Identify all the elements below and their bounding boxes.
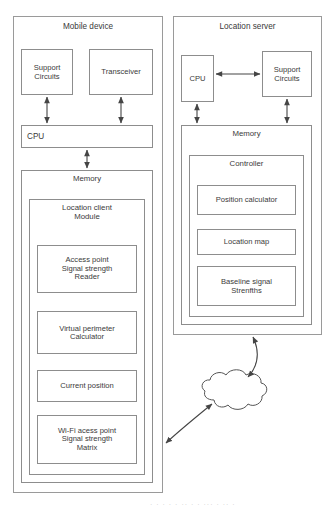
- mobile-transceiver-label: Transceiver: [90, 68, 152, 77]
- block-diagram: Mobile device Support Circuits Transceiv…: [0, 0, 335, 514]
- mobile-support-circuits-box: Support Circuits: [21, 49, 73, 95]
- server-module-baseline-signal-strengths: Baseline signal Strenfths: [197, 266, 296, 306]
- mobile-module-wifi-signal-matrix-label: Wi-Fi acess point Signal strength Matrix: [38, 427, 136, 453]
- server-module-location-map: Location map: [197, 229, 296, 255]
- server-support-circuits-box: Support Circuits: [262, 51, 312, 97]
- mobile-module-access-point-reader-label: Access point Signal strength Reader: [38, 256, 136, 282]
- server-module-position-calculator-label: Position calculator: [198, 196, 295, 205]
- mobile-memory-label: Memory: [22, 175, 152, 184]
- server-memory-label: Memory: [182, 130, 311, 139]
- mobile-cpu-box: CPU: [21, 125, 153, 148]
- mobile-module-current-position: Current position: [37, 370, 137, 402]
- server-controller-label: Controller: [190, 160, 303, 169]
- panel-location-server-title: Location server: [174, 22, 321, 31]
- mobile-location-client-module-label: Location client Module: [30, 204, 144, 221]
- server-module-position-calculator: Position calculator: [197, 185, 296, 215]
- server-module-baseline-signal-strengths-label: Baseline signal Strenfths: [198, 278, 295, 295]
- mobile-module-virtual-perimeter-calculator: Virtual perimeter Calculator: [37, 311, 137, 354]
- mobile-module-wifi-signal-matrix: Wi-Fi acess point Signal strength Matrix: [37, 415, 137, 464]
- mobile-module-access-point-reader: Access point Signal strength Reader: [37, 245, 137, 293]
- server-cpu-box: CPU: [181, 55, 214, 102]
- mobile-transceiver-box: Transceiver: [89, 49, 153, 95]
- arrow-network-to-mobile: [166, 404, 212, 443]
- mobile-cpu-label: CPU: [22, 132, 152, 141]
- mobile-module-virtual-perimeter-calculator-label: Virtual perimeter Calculator: [38, 324, 136, 341]
- server-module-location-map-label: Location map: [198, 238, 295, 247]
- network-cloud-label: Network: [203, 396, 259, 405]
- arrow-server-to-network: [248, 337, 257, 377]
- server-cpu-label: CPU: [182, 74, 213, 83]
- server-support-circuits-label: Support Circuits: [263, 66, 311, 83]
- panel-mobile-device-title: Mobile device: [14, 22, 162, 31]
- scan-artifact: · · · · · ·· · · ··· · ·· ·: [150, 501, 236, 508]
- mobile-module-current-position-label: Current position: [38, 382, 136, 391]
- mobile-support-circuits-label: Support Circuits: [22, 64, 72, 81]
